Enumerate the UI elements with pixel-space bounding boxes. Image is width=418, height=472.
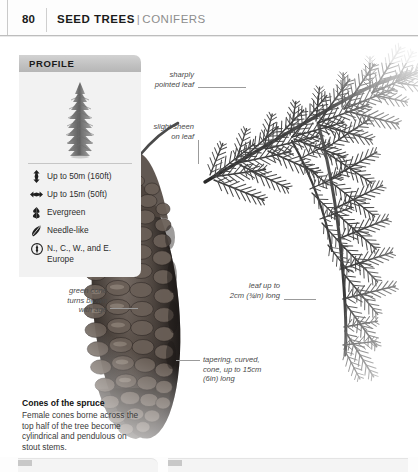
leader-line-sharply-pointed-leaf xyxy=(198,87,246,88)
folio-divider xyxy=(46,8,47,32)
figure-caption: Cones of the spruce Female cones borne a… xyxy=(22,398,140,452)
profile-spec-distribution: N., C., W., and E. Europe xyxy=(19,242,141,264)
height-arrow-icon xyxy=(28,170,45,183)
profile-spec-foliage-persistence: Evergreen xyxy=(19,206,141,219)
profile-spec-foliage-persistence-text: Evergreen xyxy=(45,206,85,218)
compass-globe-icon xyxy=(28,242,45,255)
next-panel-stub-right xyxy=(168,458,408,472)
leader-line-slight-sheen-on-leaf xyxy=(198,140,199,164)
running-head: SEED TREES|CONIFERS xyxy=(57,13,206,25)
profile-spec-distribution-text: N., C., W., and E. Europe xyxy=(45,242,133,264)
profile-panel-body: Up to 50m (160ft) Up to 15m (50ft) Everg… xyxy=(19,72,141,277)
annotation-leaf-length: leaf up to 2cm (¾in) long xyxy=(206,281,280,300)
evergreen-leaf-icon xyxy=(28,206,45,219)
profile-spec-height-text: Up to 50m (160ft) xyxy=(45,170,112,182)
conifer-tree-silhouette-icon xyxy=(19,78,141,160)
figure-caption-title: Cones of the spruce xyxy=(22,398,140,409)
profile-spec-leaf-type-text: Needle-like xyxy=(45,224,89,236)
leader-line-green-cone xyxy=(110,308,138,309)
next-panel-stub-left xyxy=(18,458,158,472)
leader-line-leaf-length xyxy=(284,299,316,300)
next-panel-stub-right-tab xyxy=(168,460,182,466)
spread-arrow-icon xyxy=(28,188,45,201)
profile-panel: PROFILE xyxy=(19,55,141,277)
leader-line-cone-shape xyxy=(176,360,200,361)
profile-spec-leaf-type: Needle-like xyxy=(19,224,141,237)
profile-spec-spread-text: Up to 15m (50ft) xyxy=(45,188,107,200)
profile-panel-header: PROFILE xyxy=(19,55,141,72)
page-edge-rule xyxy=(7,0,8,36)
annotation-green-cone-turns-brown: green cone turns brown with age xyxy=(45,286,107,315)
page-number: 80 xyxy=(22,13,35,25)
annotation-cone-shape-length: tapering, curved, cone, up to 15cm (6in)… xyxy=(203,355,289,384)
profile-spec-height: Up to 50m (160ft) xyxy=(19,170,141,183)
profile-panel-title: PROFILE xyxy=(29,58,74,69)
needle-leaf-icon xyxy=(28,224,45,237)
profile-divider xyxy=(28,163,132,164)
figure-caption-body: Female cones borne across the top half o… xyxy=(22,410,140,452)
next-panel-stub-left-tab xyxy=(18,460,32,466)
profile-spec-spread: Up to 15m (50ft) xyxy=(19,188,141,201)
running-head-secondary: CONIFERS xyxy=(142,13,205,25)
running-head-primary: SEED TREES xyxy=(57,13,135,25)
